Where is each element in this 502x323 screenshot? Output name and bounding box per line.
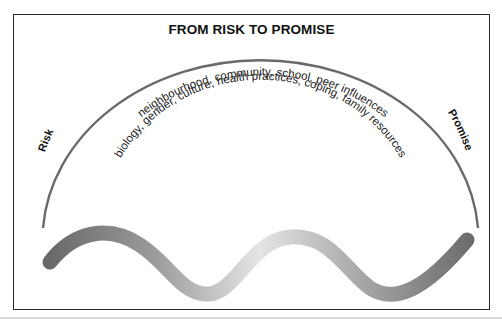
risk-promise-diagram: neighbourhood, community, school, peer i… — [0, 0, 502, 323]
risk-to-promise-arc — [43, 60, 478, 228]
development-wave — [50, 233, 467, 294]
promise-label: Promise — [446, 107, 475, 152]
risk-label: Risk — [35, 126, 55, 153]
